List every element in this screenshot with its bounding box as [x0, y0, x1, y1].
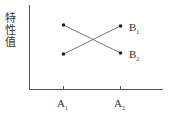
- series-label-b1: B1: [129, 21, 139, 35]
- b1-point-a2: [119, 24, 123, 28]
- y-axis-label-char-3: 值: [5, 36, 16, 48]
- b2-point-a1: [62, 23, 66, 27]
- x-tick-label-a2: A2: [114, 97, 125, 111]
- series-b1-line: [64, 26, 121, 54]
- series-label-b2: B2: [129, 48, 139, 62]
- x-tick-label-a1: A1: [57, 97, 68, 111]
- b1-point-a1: [62, 52, 66, 56]
- interaction-chart: 特 性 值 B1 B2 A1 A2: [0, 0, 169, 119]
- b2-point-a2: [119, 51, 123, 55]
- series-b2-line: [64, 25, 121, 53]
- y-axis-label-char-1: 特: [5, 11, 16, 24]
- y-axis-label-char-2: 性: [5, 23, 16, 36]
